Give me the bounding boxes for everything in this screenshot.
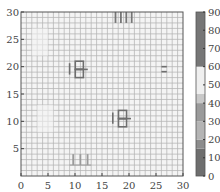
colorbar-tick-label: 30 (208, 116, 220, 127)
y-tick-label: 25 (6, 34, 19, 45)
colorbar-band (196, 12, 205, 67)
colorbar (196, 12, 205, 176)
light-patch (37, 105, 53, 132)
colorbar-tick-label: 20 (208, 134, 220, 145)
x-tick-label: 10 (69, 180, 82, 191)
colorbar-tick-label: 40 (208, 98, 220, 109)
colorbar-band (196, 67, 205, 94)
y-tick-label: 20 (6, 61, 19, 72)
colorbar-tick-label: 60 (208, 61, 220, 72)
x-tick-label: 20 (123, 180, 136, 191)
y-tick-label: 10 (6, 116, 19, 127)
colorbar-tick-label: 50 (208, 79, 220, 90)
colorbar-tick-label: 10 (208, 152, 220, 163)
x-tick-label: 5 (45, 180, 51, 191)
x-tick-label: 25 (150, 180, 163, 191)
light-patch (32, 28, 48, 55)
colorbar-band (196, 121, 205, 139)
colorbar-tick-label: 90 (208, 7, 220, 18)
heatmap-chart: 051015202530 51015202530 010203040506070… (0, 0, 220, 192)
y-tick-label: 15 (6, 89, 19, 100)
colorbar-band (196, 149, 205, 176)
colorbar-band (196, 103, 205, 121)
colorbar-axis: 0102030405060708090 (203, 7, 220, 182)
x-tick-label: 0 (18, 180, 24, 191)
colorbar-tick-label: 80 (208, 25, 220, 36)
x-tick-label: 30 (177, 180, 190, 191)
colorbar-band (196, 140, 205, 149)
colorbar-band (196, 94, 205, 103)
x-tick-label: 15 (96, 180, 109, 191)
y-tick-label: 30 (6, 7, 19, 18)
y-tick-label: 5 (13, 143, 19, 154)
colorbar-tick-label: 70 (208, 43, 220, 54)
colorbar-tick-label: 0 (208, 171, 214, 182)
